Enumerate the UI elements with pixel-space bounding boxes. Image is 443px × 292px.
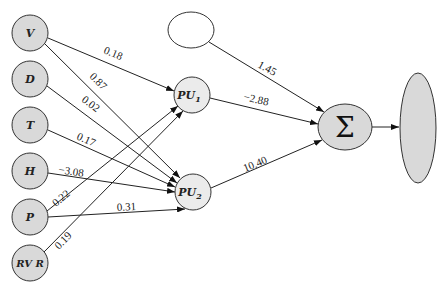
weight-pu2-sum: 10.40 — [241, 153, 269, 174]
weight-h-pu2: −3.08 — [58, 163, 86, 179]
input-node-rvr: RV R — [12, 245, 48, 281]
input-label-v: V — [26, 27, 36, 40]
hidden-node-pu1: PU1 — [174, 77, 210, 113]
weight-pu1-sum: −2.88 — [243, 90, 271, 108]
sigma-symbol: Σ — [335, 111, 355, 144]
weight-bias-sum: 1.45 — [256, 58, 279, 78]
output-node — [400, 73, 436, 183]
weight-p-pu2: 0.31 — [116, 200, 136, 213]
input-node-v: V — [12, 15, 48, 51]
input-label-p: P — [25, 211, 35, 224]
weight-t-pu2: 0.17 — [75, 130, 98, 149]
hidden-node-pu2: PU2 — [175, 174, 211, 210]
bias-node — [168, 12, 214, 48]
hidden-layer: PU1 PU2 — [174, 77, 211, 210]
input-node-d: D — [12, 61, 48, 97]
input-label-d: D — [24, 73, 35, 86]
input-node-t: T — [12, 107, 48, 143]
input-node-h: H — [12, 153, 48, 189]
input-label-h: H — [24, 165, 36, 178]
sum-edges — [209, 42, 399, 188]
weight-labels: 0.18 0.87 0.02 0.17 −3.08 0.22 0.31 0.19… — [50, 44, 280, 252]
weight-v-pu1: 0.18 — [102, 44, 125, 63]
weight-p-pu1: 0.22 — [50, 187, 72, 209]
neural-network-diagram: 0.18 0.87 0.02 0.17 −3.08 0.22 0.31 0.19… — [0, 0, 443, 292]
weight-d-pu2: 0.02 — [80, 93, 103, 114]
input-layer: V D T H P RV R — [12, 15, 48, 281]
input-node-p: P — [12, 199, 48, 235]
input-label-t: T — [26, 119, 35, 132]
input-label-rvr: RV R — [15, 258, 44, 269]
sum-node: Σ — [318, 104, 372, 150]
weight-rvr-pu1: 0.19 — [52, 229, 74, 252]
input-edges — [44, 38, 185, 252]
